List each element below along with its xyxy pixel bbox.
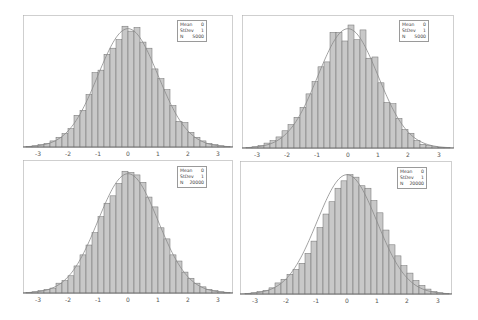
histogram-bar	[354, 40, 360, 148]
stats-legend-bottom-right: Mean0 StDev1 N20000	[397, 167, 427, 189]
n-value: 20000	[189, 180, 204, 186]
histogram-bar	[359, 186, 365, 294]
n-value: 5000	[414, 34, 426, 40]
histogram-bar	[335, 188, 341, 294]
x-tick: -2	[65, 150, 71, 157]
histogram-bar	[408, 133, 414, 148]
histogram-bar	[329, 202, 335, 294]
histogram-bar	[317, 228, 323, 294]
histogram-bar	[420, 144, 426, 148]
histogram-bar	[330, 32, 336, 148]
x-tick: 0	[126, 150, 130, 157]
histogram-bar	[152, 207, 158, 293]
histogram-bar	[312, 82, 318, 148]
histogram-bar	[128, 31, 134, 147]
histogram-bar	[401, 266, 407, 294]
x-tick: -2	[283, 297, 289, 304]
histogram-bar	[426, 146, 432, 148]
x-tick: -2	[65, 296, 71, 303]
histogram-bar	[188, 278, 194, 293]
histogram-bar	[299, 263, 305, 294]
histogram-bar	[395, 256, 401, 294]
x-tick: 3	[216, 296, 220, 303]
histogram-bar	[305, 253, 311, 294]
x-tick: 2	[186, 296, 190, 303]
histogram-bar	[323, 214, 329, 294]
histogram-bar	[365, 188, 371, 294]
x-tick: 0	[345, 297, 349, 304]
n-label: N	[402, 34, 405, 40]
n-label: N	[180, 34, 183, 40]
histogram-bar	[110, 196, 116, 293]
histogram-bar	[390, 104, 396, 148]
histogram-bar	[104, 203, 110, 293]
histogram-bar	[116, 184, 122, 293]
histogram-bar	[116, 40, 122, 147]
histogram-bar	[281, 279, 287, 294]
histogram-bar	[74, 266, 80, 293]
x-tick: -3	[254, 151, 260, 158]
stats-legend-top-right: Mean0 StDev1 N5000	[399, 20, 429, 42]
x-tick: 1	[156, 150, 160, 157]
histogram-bar	[188, 132, 194, 147]
histogram-bar	[347, 175, 353, 294]
histogram-bar	[164, 90, 170, 147]
histogram-bar	[68, 276, 74, 293]
histogram-bar	[62, 281, 68, 293]
histogram-bar	[92, 73, 98, 147]
histogram-bar	[378, 83, 384, 148]
histogram-bar	[140, 182, 146, 293]
histogram-bar	[377, 213, 383, 294]
histogram-bar	[383, 230, 389, 294]
histogram-bar	[324, 62, 330, 148]
histogram-bar	[158, 79, 164, 147]
histogram-bar	[80, 255, 86, 293]
histogram-bar	[98, 217, 104, 293]
histogram-bar	[146, 197, 152, 293]
x-tick: -1	[95, 150, 101, 157]
histogram-bar	[146, 48, 152, 147]
histogram-bar	[384, 102, 390, 148]
histogram-bar	[98, 70, 104, 147]
stats-legend-top-left: Mean0 StDev1 N5000	[177, 20, 207, 42]
histogram-bar	[74, 115, 80, 147]
histogram-bar	[275, 283, 281, 294]
histogram-bar	[170, 255, 176, 293]
histogram-bar	[318, 67, 324, 148]
histogram-bar	[158, 228, 164, 293]
histogram-bar	[353, 177, 359, 294]
n-value: 5000	[192, 34, 204, 40]
stats-legend-bottom-left: Mean0 StDev1 N20000	[177, 166, 207, 188]
histogram-bar	[182, 123, 188, 147]
x-tick: -2	[284, 151, 290, 158]
n-label: N	[400, 181, 403, 187]
x-tick: 2	[186, 150, 190, 157]
histogram-bar	[176, 121, 182, 147]
histogram-bar	[407, 273, 413, 294]
n-label: N	[180, 180, 183, 186]
histogram-bar	[110, 48, 116, 147]
histogram-bar	[134, 175, 140, 293]
histogram-bar	[86, 245, 92, 293]
histogram-bar	[341, 181, 347, 294]
histogram-bar	[104, 54, 110, 147]
histogram-bar	[92, 233, 98, 293]
histogram-bar	[182, 272, 188, 293]
x-tick: 1	[156, 296, 160, 303]
x-tick: 1	[375, 297, 379, 304]
histogram-bar	[402, 130, 408, 148]
histogram-bar	[176, 261, 182, 293]
x-tick: 0	[126, 296, 130, 303]
n-value: 20000	[409, 181, 424, 187]
histogram-bar	[140, 42, 146, 147]
x-tick: 2	[405, 297, 409, 304]
x-tick: -3	[35, 150, 41, 157]
histogram-bar	[293, 269, 299, 294]
x-tick: -1	[314, 151, 320, 158]
x-tick: 2	[406, 151, 410, 158]
histogram-bar	[152, 69, 158, 147]
histogram-bar	[311, 241, 317, 294]
histogram-bar	[134, 27, 140, 147]
histogram-bar	[122, 171, 128, 293]
histogram-bar	[80, 110, 86, 147]
